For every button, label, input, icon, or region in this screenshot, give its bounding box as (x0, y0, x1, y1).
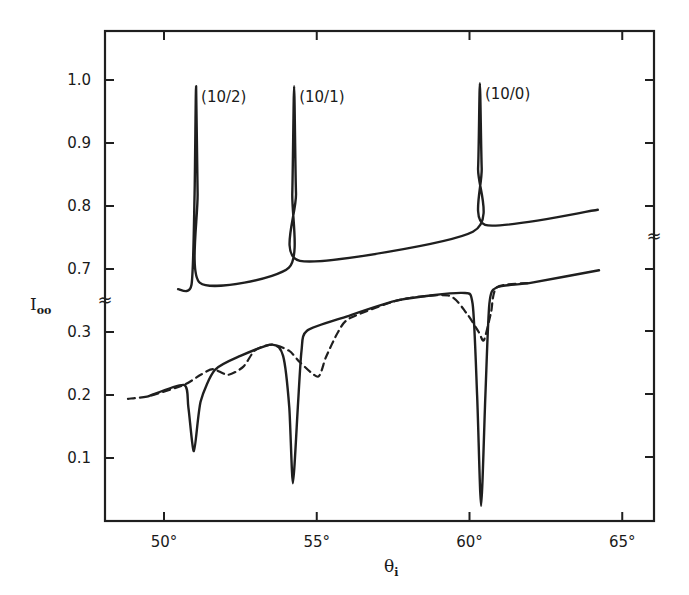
chart: 50°55°60°65°1.00.90.80.70.30.20.1≈≈ (10/… (0, 0, 689, 595)
y-axis-title-main: I (30, 294, 37, 314)
x-tick-label: 55° (303, 533, 330, 551)
x-axis-title-sub: i (394, 566, 398, 579)
y-tick-label: 0.2 (67, 386, 91, 404)
peak-label: (10/2) (201, 88, 246, 106)
y-tick-label: 0.3 (67, 323, 91, 341)
y-tick-label: 0.9 (67, 134, 91, 152)
x-tick-label: 60° (456, 533, 483, 551)
y-tick-label: 0.1 (67, 449, 91, 467)
y-axis-title-sub: oo (37, 304, 52, 317)
y-tick-label: 0.7 (67, 260, 91, 278)
series-line-2 (128, 283, 531, 399)
y-tick-label: 0.8 (67, 197, 91, 215)
x-tick-label: 50° (151, 533, 178, 551)
y-axis-title: Ioo (30, 294, 51, 317)
x-tick-label: 65° (609, 533, 636, 551)
peak-label: (10/1) (299, 88, 344, 106)
series-line-0 (178, 83, 598, 291)
x-axis-title-main: θ (384, 556, 394, 576)
peak-label: (10/0) (485, 85, 530, 103)
axis-break-left-icon: ≈ (97, 289, 112, 310)
data-series (128, 83, 599, 506)
y-tick-label: 1.0 (67, 71, 91, 89)
series-line-1 (148, 270, 599, 506)
axis-break-right-icon: ≈ (646, 225, 661, 246)
x-axis-title: θi (384, 556, 398, 579)
